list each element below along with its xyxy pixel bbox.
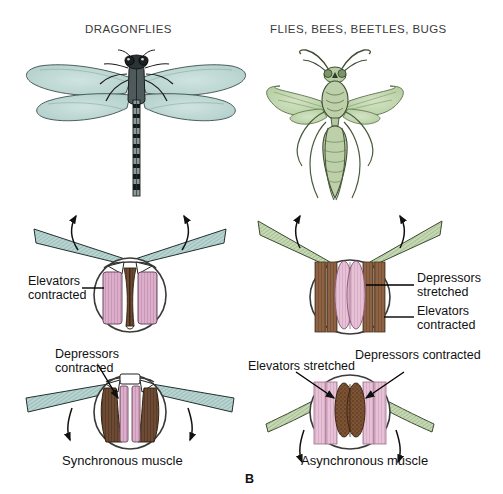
muscle-elevator-right-stretched — [132, 386, 140, 442]
muscle-elevator-right — [138, 272, 157, 324]
label-elevators-stretched-line1: Elevators stretched — [248, 360, 355, 374]
dragonfly-illustration — [26, 50, 245, 196]
label-elevators-contracted-line1: Elevators — [28, 275, 86, 289]
label-depressors-contracted-line1: Depressors — [55, 348, 119, 362]
label-elevators-contracted-line2: contracted — [28, 289, 86, 303]
caption-synchronous-muscle: Synchronous muscle — [62, 453, 183, 468]
muscle-elevator-right-async — [374, 262, 385, 332]
label-elevators-contracted: Elevators contracted — [28, 275, 86, 302]
label-depressors-stretched-line1: Depressors — [417, 272, 481, 286]
panel-letter-b: B — [245, 472, 254, 486]
arrow-downstroke-left — [68, 408, 72, 440]
label-depressors-contracted-async: Depressors contracted — [355, 349, 481, 363]
figure-artwork — [0, 0, 503, 494]
label-elevators-contracted-async-line2: contracted — [417, 319, 475, 333]
label-elevators-stretched: Elevators stretched — [248, 360, 355, 374]
caption-asynchronous-muscle: Asynchronous muscle — [301, 453, 428, 468]
diagram-synchronous-downstroke — [26, 365, 234, 449]
muscle-elevator-left-async — [315, 262, 326, 332]
muscle-elevator-left — [103, 272, 122, 324]
label-elevators-contracted-async: Elevators contracted — [417, 305, 475, 332]
arrow-downstroke-right — [188, 408, 192, 440]
label-depressors-contracted-line2: contracted — [55, 362, 119, 376]
diagram-asynchronous-downstroke — [266, 372, 434, 462]
diagram-asynchronous-upstroke — [258, 216, 442, 334]
label-depressors-stretched-line2: stretched — [417, 286, 481, 300]
insect-flight-muscle-figure: DRAGONFLIES FLIES, BEES, BEETLES, BUGS — [0, 0, 503, 494]
label-depressors-contracted-async-line1: Depressors contracted — [355, 349, 481, 363]
muscle-elevator-left-stretched — [120, 386, 128, 442]
label-depressors-contracted: Depressors contracted — [55, 348, 119, 375]
wasp-illustration — [267, 50, 404, 200]
label-elevators-contracted-async-line1: Elevators — [417, 305, 475, 319]
label-depressors-stretched: Depressors stretched — [417, 272, 481, 299]
